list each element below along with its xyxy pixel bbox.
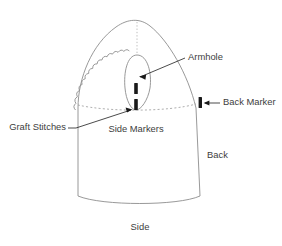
side-marker-lower-tick <box>134 99 138 110</box>
back-marker-label: Back Marker <box>223 96 276 107</box>
side-label: Side <box>131 221 150 232</box>
side-markers-label: Side Markers <box>108 123 164 134</box>
graft-stitches-label: Graft Stitches <box>9 121 66 132</box>
knitting-schematic-diagram: Armhole Back Marker Side Markers Graft S… <box>0 0 282 246</box>
back-marker-arrowhead <box>204 101 210 106</box>
side-marker-upper-tick <box>134 83 138 94</box>
back-label: Back <box>207 149 228 160</box>
armhole-label: Armhole <box>188 51 223 62</box>
back-marker-tick <box>199 97 202 108</box>
garment-body-outline <box>78 20 200 203</box>
